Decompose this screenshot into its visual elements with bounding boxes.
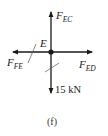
figure-caption: (f) bbox=[47, 116, 57, 128]
node-label-e: E bbox=[39, 37, 47, 49]
label-f-fe: FFE bbox=[6, 56, 23, 71]
hatch-mark-left bbox=[28, 44, 36, 63]
free-body-diagram: E FEC FFE FED 15 kN (f) bbox=[0, 0, 108, 136]
joint-node-e bbox=[48, 49, 53, 54]
label-load-15kn: 15 kN bbox=[55, 84, 81, 95]
label-f-ec: FEC bbox=[55, 9, 73, 24]
label-f-ed: FED bbox=[78, 58, 96, 73]
hatch-mark-lower bbox=[45, 63, 59, 72]
